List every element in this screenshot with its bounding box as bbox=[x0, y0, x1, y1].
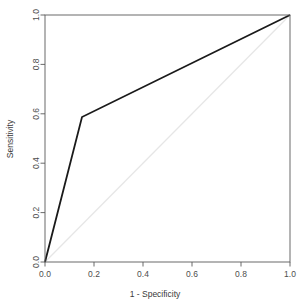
y-tick-label: 0.8 bbox=[31, 58, 41, 70]
y-tick-label: 0.0 bbox=[31, 256, 41, 268]
x-axis-tick-labels: 0.00.20.40.60.81.0 bbox=[39, 269, 296, 279]
y-axis-ticks bbox=[41, 15, 46, 262]
y-tick-label: 0.2 bbox=[31, 206, 41, 218]
x-tick-label: 0.2 bbox=[88, 269, 100, 279]
y-axis-title: Sensitivity bbox=[5, 119, 15, 158]
x-tick-label: 0.0 bbox=[39, 269, 51, 279]
x-axis-title: 1 - Specificity bbox=[130, 289, 181, 299]
roc-plot-canvas: 0.00.20.40.60.81.0 0.00.20.40.60.81.0 1 … bbox=[0, 0, 302, 307]
y-tick-label: 0.6 bbox=[31, 108, 41, 120]
x-tick-label: 1.0 bbox=[284, 269, 296, 279]
x-tick-label: 0.4 bbox=[137, 269, 149, 279]
roc-chart-figure: 0.00.20.40.60.81.0 0.00.20.40.60.81.0 1 … bbox=[0, 0, 302, 307]
y-tick-label: 1.0 bbox=[31, 9, 41, 21]
x-axis-ticks bbox=[45, 262, 290, 267]
y-axis-tick-labels: 0.00.20.40.60.81.0 bbox=[31, 9, 41, 268]
y-tick-label: 0.4 bbox=[31, 157, 41, 169]
x-tick-label: 0.6 bbox=[186, 269, 198, 279]
x-tick-label: 0.8 bbox=[235, 269, 247, 279]
